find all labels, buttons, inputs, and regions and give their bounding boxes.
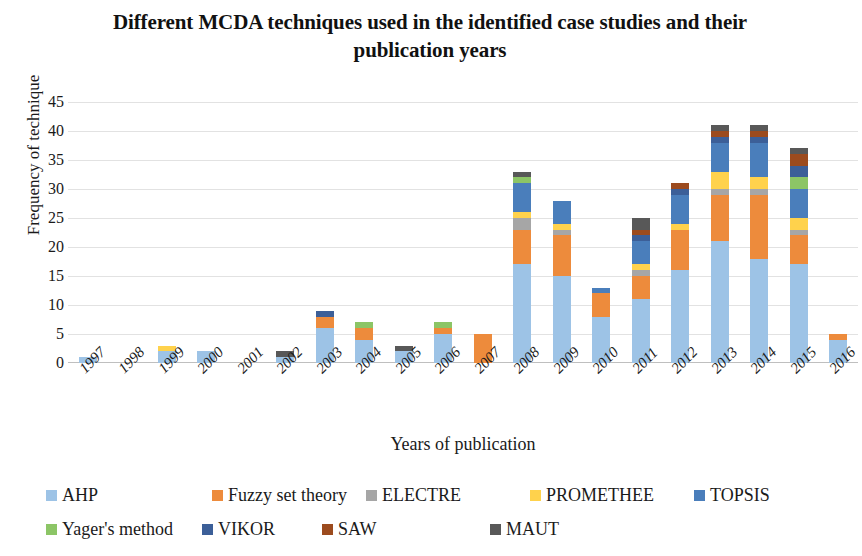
y-axis-tick-labels: 051015202530354045 — [30, 102, 64, 363]
legend-color-swatch — [322, 524, 333, 535]
bar-segment[interactable] — [711, 241, 729, 363]
legend-color-swatch — [530, 490, 541, 501]
y-axis-tick-label: 20 — [30, 238, 64, 256]
y-axis-tick-label: 5 — [30, 325, 64, 343]
bar-segment[interactable] — [790, 166, 808, 178]
bar-segment[interactable] — [632, 241, 650, 264]
bar-segment[interactable] — [790, 189, 808, 218]
bar-segment[interactable] — [632, 218, 650, 230]
bar-stack[interactable] — [711, 125, 729, 363]
bar-segment[interactable] — [790, 218, 808, 230]
legend-color-swatch — [366, 490, 377, 501]
bar-segment[interactable] — [355, 328, 373, 340]
y-axis-tick-label: 0 — [30, 354, 64, 372]
chart-legend: AHPFuzzy set theoryELECTREPROMETHEETOPSI… — [0, 486, 862, 556]
bar-segment[interactable] — [750, 177, 768, 189]
bar-stack[interactable] — [790, 148, 808, 363]
bar-segment[interactable] — [790, 235, 808, 264]
bar-series-layer — [68, 102, 858, 363]
bar-segment[interactable] — [671, 230, 689, 271]
bar-segment[interactable] — [790, 154, 808, 166]
y-axis-tick-label: 25 — [30, 209, 64, 227]
bar-stack[interactable] — [553, 201, 571, 363]
legend-item[interactable]: PROMETHEE — [530, 486, 654, 504]
bar-segment[interactable] — [632, 276, 650, 299]
x-axis-tick-labels: 1997199819992000200120022003200420052006… — [68, 365, 858, 425]
legend-color-swatch — [46, 524, 57, 535]
bar-segment[interactable] — [711, 195, 729, 241]
bar-segment[interactable] — [711, 172, 729, 189]
legend-color-swatch — [202, 524, 213, 535]
legend-color-swatch — [694, 490, 705, 501]
legend-item[interactable]: SAW — [322, 520, 377, 538]
x-axis-title: Years of publication — [68, 434, 858, 455]
bar-segment[interactable] — [711, 143, 729, 172]
bar-segment[interactable] — [316, 317, 334, 329]
legend-label: SAW — [338, 520, 377, 538]
legend-label: ELECTRE — [382, 486, 461, 504]
legend-item[interactable]: Yager's method — [46, 520, 173, 538]
legend-item[interactable]: TOPSIS — [694, 486, 770, 504]
chart-title: Different MCDA techniques used in the id… — [110, 8, 750, 64]
legend-item[interactable]: Fuzzy set theory — [212, 486, 347, 504]
chart-figure: Different MCDA techniques used in the id… — [0, 0, 862, 556]
y-axis-tick-label: 30 — [30, 180, 64, 198]
plot-area — [68, 102, 858, 363]
bar-segment[interactable] — [790, 177, 808, 189]
bar-stack[interactable] — [632, 218, 650, 363]
legend-color-swatch — [46, 490, 57, 501]
y-axis-tick-label: 10 — [30, 296, 64, 314]
bar-stack[interactable] — [513, 172, 531, 363]
legend-label: MAUT — [506, 520, 559, 538]
legend-label: PROMETHEE — [546, 486, 654, 504]
bar-segment[interactable] — [553, 235, 571, 276]
bar-segment[interactable] — [750, 195, 768, 259]
legend-color-swatch — [490, 524, 501, 535]
legend-color-swatch — [212, 490, 223, 501]
y-axis-tick-label: 15 — [30, 267, 64, 285]
legend-label: AHP — [62, 486, 98, 504]
legend-item[interactable]: MAUT — [490, 520, 559, 538]
legend-label: VIKOR — [218, 520, 275, 538]
y-axis-tick-label: 40 — [30, 122, 64, 140]
bar-stack[interactable] — [671, 183, 689, 363]
bar-segment[interactable] — [750, 143, 768, 178]
bar-stack[interactable] — [750, 125, 768, 363]
bar-segment[interactable] — [671, 195, 689, 224]
y-axis-tick-label: 35 — [30, 151, 64, 169]
bar-segment[interactable] — [553, 201, 571, 224]
legend-label: TOPSIS — [710, 486, 770, 504]
legend-label: Fuzzy set theory — [228, 486, 347, 504]
legend-label: Yager's method — [62, 520, 173, 538]
bar-segment[interactable] — [592, 293, 610, 316]
bar-segment[interactable] — [513, 183, 531, 212]
legend-item[interactable]: VIKOR — [202, 520, 275, 538]
bar-segment[interactable] — [513, 230, 531, 265]
legend-item[interactable]: ELECTRE — [366, 486, 461, 504]
legend-item[interactable]: AHP — [46, 486, 98, 504]
bar-segment[interactable] — [513, 218, 531, 230]
y-axis-tick-label: 45 — [30, 93, 64, 111]
